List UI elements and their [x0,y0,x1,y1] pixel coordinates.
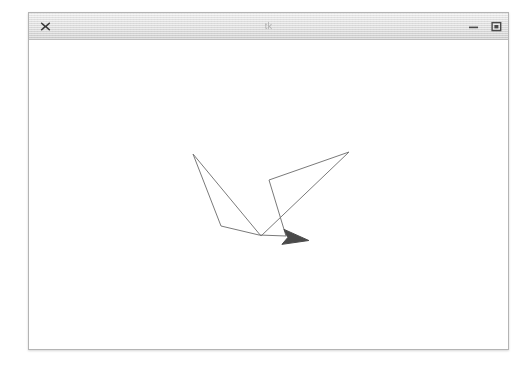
close-icon [40,21,51,32]
window-title-bar[interactable]: tk [29,13,508,40]
maximize-button[interactable] [489,18,503,36]
turtle-cursor [282,229,309,244]
window-title-container: tk [29,13,508,39]
turtle-path-group [193,152,349,236]
window-client-area [29,40,508,349]
turtle-drawing-path [193,152,349,236]
desktop-background: tk [0,0,530,375]
maximize-icon [491,21,502,32]
window-title-text: tk [265,21,272,31]
turtle-arrow-icon [282,229,309,244]
close-button[interactable] [33,14,57,39]
minimize-button[interactable] [467,18,480,36]
window-controls-group [467,13,503,40]
application-window: tk [28,12,509,350]
minimize-icon [468,21,479,32]
turtle-graphics-canvas[interactable] [29,40,508,349]
